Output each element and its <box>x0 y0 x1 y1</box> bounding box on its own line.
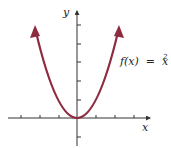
y-axis-label: y <box>62 6 70 19</box>
function-label: f(x) = x <box>119 55 169 68</box>
function-exponent: 2 <box>162 53 168 61</box>
x-axis-label: x <box>142 121 149 134</box>
right-arrowhead-icon <box>114 25 124 38</box>
graph: y x f(x) = x 2 <box>0 0 171 148</box>
parabola-figure: y x f(x) = x 2 <box>0 0 171 148</box>
left-arrowhead-icon <box>30 25 40 38</box>
y-axis <box>77 11 81 146</box>
